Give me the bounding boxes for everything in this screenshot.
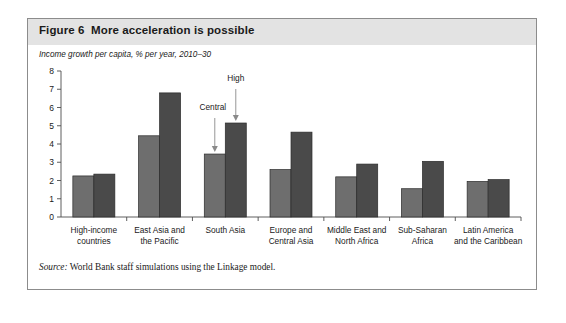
figure-card: Figure 6 More acceleration is possible I… xyxy=(27,18,537,290)
bar-high xyxy=(94,174,115,217)
x-axis-category-label: Sub-Saharan xyxy=(398,225,447,235)
bar-high xyxy=(357,164,378,217)
bar-central xyxy=(204,154,225,217)
annotation-label-central: Central xyxy=(199,102,226,112)
y-axis-tick-label: 0 xyxy=(49,212,54,222)
x-axis-category-label: and the Caribbean xyxy=(454,236,523,246)
annotation-arrow-head xyxy=(212,146,218,152)
annotation-arrow-head xyxy=(233,115,239,121)
y-axis-tick-label: 5 xyxy=(49,121,54,131)
x-axis-category-label: South Asia xyxy=(205,225,245,235)
y-axis-tick-label: 4 xyxy=(49,139,54,149)
figure-subtitle: Income growth per capita, % per year, 20… xyxy=(39,50,211,59)
bar-central xyxy=(270,170,291,217)
x-axis-category-label: countries xyxy=(77,236,111,246)
x-axis-category-label: Middle East and xyxy=(327,225,387,235)
bar-central xyxy=(467,181,488,217)
y-axis-tick-label: 8 xyxy=(49,66,54,76)
source-text: World Bank staff simulations using the L… xyxy=(68,262,276,272)
x-axis-category-label: Latin America xyxy=(463,225,514,235)
x-axis-category-label: East Asia and xyxy=(134,225,185,235)
y-axis-tick-label: 7 xyxy=(49,84,54,94)
chart-plot-area: 012345678High-incomecountriesEast Asia a… xyxy=(39,65,527,265)
bar-high xyxy=(225,123,246,217)
y-axis-tick-label: 3 xyxy=(49,157,54,167)
bar-high xyxy=(291,132,312,217)
bar-high xyxy=(422,161,443,217)
x-axis-category-label: Central Asia xyxy=(269,236,314,246)
x-axis-category-label: Europe and xyxy=(270,225,313,235)
figure-title: Figure 6 More acceleration is possible xyxy=(39,24,254,36)
bar-high xyxy=(160,93,181,217)
bar-high xyxy=(488,180,509,217)
source-prefix: Source: xyxy=(39,262,68,272)
y-axis-tick-label: 6 xyxy=(49,103,54,113)
y-axis-tick-label: 2 xyxy=(49,176,54,186)
x-axis-category-label: North Africa xyxy=(335,236,379,246)
annotation-label-high: High xyxy=(227,73,244,83)
bar-chart: 012345678High-incomecountriesEast Asia a… xyxy=(39,65,527,265)
bar-central xyxy=(336,177,357,217)
bar-central xyxy=(401,189,422,217)
y-axis-tick-label: 1 xyxy=(49,194,54,204)
bar-central xyxy=(73,176,94,217)
source-note: Source: World Bank staff simulations usi… xyxy=(39,262,275,272)
x-axis-category-label: the Pacific xyxy=(140,236,178,246)
x-axis-category-label: High-income xyxy=(71,225,118,235)
bar-central xyxy=(139,136,160,217)
x-axis-category-label: Africa xyxy=(412,236,434,246)
